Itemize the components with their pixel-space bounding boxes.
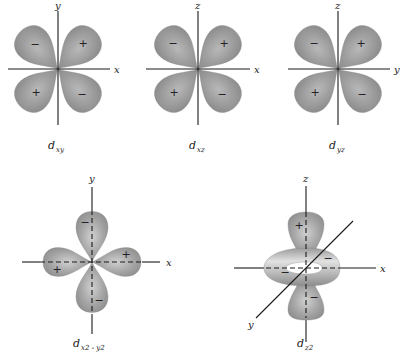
h-axis-label: x	[114, 64, 120, 75]
sign-lower-left: +	[169, 86, 178, 99]
v-axis-label: y	[88, 173, 95, 184]
name-main: d	[297, 337, 304, 350]
sign-ring-left: −	[280, 266, 289, 279]
name-main: d	[329, 139, 336, 152]
name-main: d	[189, 139, 196, 152]
x-axis-label: x	[380, 263, 386, 274]
sign-top: −	[80, 216, 89, 229]
v-axis-label: z	[194, 0, 201, 11]
orbital-name-dx2-y2: dx2 - y2	[73, 337, 105, 352]
sign-upper-right: +	[356, 37, 365, 50]
sign-ring-right: −	[323, 252, 332, 265]
orbital-dx2-y2: x y − + + −	[22, 173, 172, 334]
name-main: d	[48, 139, 55, 152]
sign-lower-left: +	[31, 86, 40, 99]
h-axis-label: x	[166, 257, 172, 268]
name-subscript: xz	[197, 146, 205, 154]
name-subscript: x2 - y2	[81, 344, 105, 352]
sign-upper-left: −	[30, 38, 39, 51]
d-orbitals-diagram: x y − + + − dxy x z − + + − dxz y z − + …	[0, 0, 402, 356]
y-axis-label: y	[247, 319, 254, 330]
sign-lower-right: −	[217, 88, 226, 101]
sign-right: +	[121, 248, 130, 261]
orbital-dz2: x z y + − − −	[234, 173, 386, 342]
sign-upper-right: +	[78, 37, 87, 50]
name-main: d	[73, 337, 80, 350]
name-subscript: xy	[56, 146, 65, 154]
sign-lower-right: −	[77, 88, 86, 101]
v-axis-label: z	[334, 0, 341, 11]
orbital-dxy: x y − + + −	[8, 0, 120, 125]
orbital-name-dxy: dxy	[48, 139, 65, 154]
sign-left: +	[52, 263, 61, 276]
z-axis-label: z	[302, 173, 309, 184]
orbital-dxz: x z − + + −	[146, 0, 260, 125]
h-axis-label: x	[254, 64, 260, 75]
sign-upper-left: −	[309, 37, 318, 50]
name-subscript: z2	[304, 344, 314, 352]
h-axis-label: y	[393, 64, 400, 75]
sign-bottom: −	[94, 294, 103, 307]
sign-lower-right: −	[357, 88, 366, 101]
name-subscript: yz	[336, 146, 345, 154]
sign-top: +	[294, 219, 303, 232]
orbital-dyz: y z − + + −	[288, 0, 400, 125]
orbital-name-dxz: dxz	[189, 139, 205, 154]
sign-bottom: −	[309, 291, 318, 304]
v-axis-label: y	[54, 0, 61, 11]
sign-lower-left: +	[310, 86, 319, 99]
orbital-name-dz2: dz2	[297, 337, 314, 352]
sign-upper-left: −	[168, 37, 177, 50]
orbital-name-dyz: dyz	[329, 139, 345, 154]
sign-upper-right: +	[219, 37, 228, 50]
